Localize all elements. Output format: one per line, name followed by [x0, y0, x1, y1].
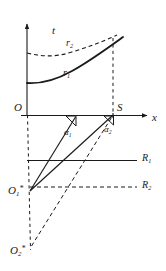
angle-alpha2-label-sub: 2	[109, 129, 112, 135]
x-axis-label: x	[152, 112, 157, 123]
line-R1-label: R1	[142, 153, 151, 164]
image-one-label-sub: 1	[16, 190, 19, 197]
curve-r2-label: r2	[66, 38, 73, 49]
ray-O1-to-source	[30, 116, 113, 192]
angle-alpha2-label: α2	[104, 125, 112, 135]
curve-r1-label: r1	[63, 68, 70, 79]
line-R2-label-sub: 2	[148, 184, 151, 191]
diagram-canvas: t x O S r2 r1 α1 α2 R1 R2 O1* O2*	[0, 0, 166, 271]
curve-r1-path	[27, 37, 123, 83]
image-one-label-main: O	[8, 184, 16, 196]
source-point-label: S	[117, 102, 123, 113]
origin-label: O	[14, 102, 22, 113]
angle-alpha1-label-sub: 1	[69, 132, 72, 138]
image-two-label-star: *	[22, 244, 26, 253]
image-one-label-star: *	[20, 184, 24, 193]
image-two-label-main: O	[10, 244, 18, 256]
image-one-point-label: O1*	[8, 185, 24, 198]
angle-alpha1-label: α1	[64, 128, 72, 138]
image-two-label-sub: 2	[18, 250, 21, 257]
origin-vertical-dashed-line	[28, 115, 31, 250]
diagram-vector-layer	[0, 0, 166, 271]
image-two-point-label: O2*	[10, 245, 26, 258]
t-axis-label: t	[52, 25, 55, 36]
curve-r2-label-sub: 2	[70, 42, 73, 49]
line-R1-label-sub: 1	[148, 157, 151, 164]
curve-r1-label-sub: 1	[67, 72, 70, 79]
line-R2-label: R2	[142, 180, 151, 191]
ray-O2-to-source-dashed	[32, 116, 113, 246]
